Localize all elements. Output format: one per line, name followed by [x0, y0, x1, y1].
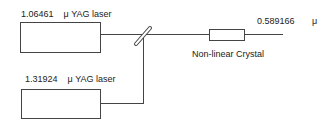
laser-2-box	[22, 90, 101, 119]
output-label: 0.589166 μ	[257, 17, 317, 26]
laser-1-wavelength: 1.06461	[21, 9, 54, 19]
laser-1-box	[21, 23, 101, 53]
crystal-label: Non-linear Crystal	[192, 50, 264, 59]
laser-2-label: 1.31924 μ YAG laser	[25, 75, 116, 84]
laser-2-wavelength: 1.31924	[25, 74, 58, 84]
laser-1-name: YAG laser	[71, 9, 111, 19]
laser-1-unit: μ	[64, 9, 69, 19]
output-unit: μ	[312, 16, 317, 26]
output-wavelength: 0.589166	[257, 16, 295, 26]
nonlinear-crystal-box	[210, 30, 245, 41]
laser-1-label: 1.06461 μ YAG laser	[21, 10, 112, 19]
laser-2-name: YAG laser	[75, 74, 115, 84]
laser-2-unit: μ	[68, 74, 73, 84]
